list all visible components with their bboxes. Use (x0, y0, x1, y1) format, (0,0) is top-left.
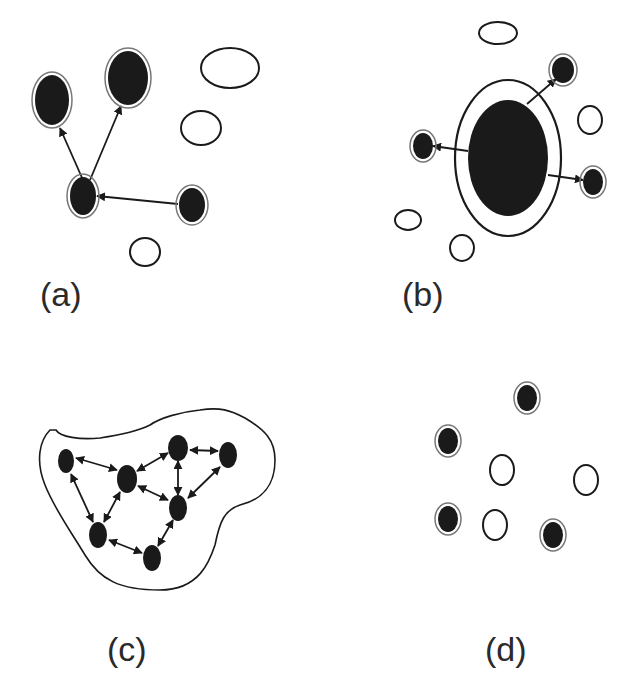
panel-a (32, 48, 259, 266)
panel-label-c: (c) (107, 630, 147, 669)
active-node (438, 428, 458, 454)
active-node (169, 495, 187, 521)
active-node (58, 449, 74, 473)
edge-arrow (433, 146, 468, 151)
active-node (413, 133, 433, 159)
inactive-node (395, 210, 421, 230)
inactive-node (578, 106, 602, 134)
edge-arrow (190, 450, 218, 451)
panel-c (40, 409, 275, 590)
active-node (117, 465, 137, 493)
edge-arrow (188, 467, 220, 498)
edge-arrow (158, 520, 173, 546)
inactive-node (483, 510, 507, 540)
inactive-node (450, 235, 474, 261)
panel-label-b: (b) (402, 275, 444, 314)
active-node (552, 57, 574, 83)
active-node (517, 385, 537, 411)
edge-arrow (137, 453, 168, 471)
active-node (143, 545, 161, 571)
edge-arrow (60, 128, 83, 180)
active-node (438, 506, 458, 532)
edge-arrow (97, 196, 178, 204)
panel-b (395, 22, 606, 261)
active-node (179, 188, 205, 222)
inactive-node (181, 111, 221, 145)
edge-arrow (138, 486, 168, 500)
active-node (583, 169, 603, 195)
edge-arrow (109, 540, 142, 553)
inactive-node (574, 465, 598, 495)
edge-arrow (527, 79, 556, 104)
inactive-node (490, 455, 514, 485)
inactive-node (479, 22, 517, 44)
active-node (108, 51, 148, 105)
active-node (35, 75, 69, 125)
edge-arrow (76, 458, 117, 470)
edge-arrow (90, 106, 121, 180)
active-node (89, 522, 107, 548)
active-node (168, 435, 188, 461)
figure-canvas (0, 0, 625, 691)
edge-arrow (71, 474, 93, 522)
panel-d (435, 382, 598, 551)
edge-arrow (548, 175, 583, 180)
active-node (70, 177, 96, 215)
active-node (219, 442, 237, 468)
panel-label-a: (a) (40, 275, 82, 314)
panel-label-d: (d) (485, 630, 527, 669)
inactive-node (130, 238, 160, 266)
edge-arrow (104, 492, 120, 522)
inactive-node (201, 48, 259, 88)
active-node (468, 100, 548, 216)
active-node (543, 522, 563, 548)
